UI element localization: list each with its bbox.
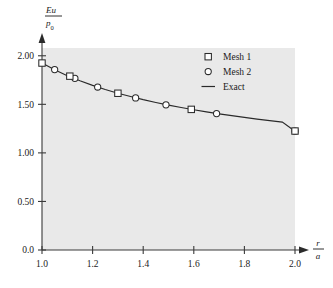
x-tick-label: 1.6 — [188, 259, 200, 269]
y-tick-label: 0.50 — [17, 197, 34, 207]
mesh1-data-point — [115, 90, 121, 96]
legend-label-mesh-1: Mesh 1 — [223, 52, 251, 62]
plot-background — [42, 48, 295, 250]
legend: Mesh 1 Mesh 2 Exact — [202, 52, 252, 92]
x-axis-title-denominator: a — [316, 251, 321, 261]
x-tick-label: 1.0 — [36, 259, 48, 269]
mesh2-data-point — [52, 66, 58, 72]
y-ticklabel-group: 0.00.501.001.502.00 — [17, 51, 34, 255]
legend-marker-mesh-1 — [205, 54, 211, 60]
legend-label-exact: Exact — [223, 82, 245, 92]
x-tick-label: 1.4 — [137, 259, 149, 269]
x-ticklabel-group: 1.01.21.41.61.82.0 — [36, 259, 301, 269]
mesh2-data-point — [95, 84, 101, 90]
mesh2-data-point — [163, 102, 169, 108]
x-tick-label: 1.8 — [238, 259, 250, 269]
mesh1-data-point — [292, 128, 298, 134]
figure-container: 0.00.501.001.502.00 1.01.21.41.61.82.0 E… — [0, 0, 333, 288]
mesh1-data-point — [67, 73, 73, 79]
x-tick-label: 1.2 — [87, 259, 99, 269]
chart-canvas: 0.00.501.001.502.00 1.01.21.41.61.82.0 E… — [0, 0, 333, 288]
x-axis-title-numerator: r — [316, 238, 320, 248]
x-axis-title: r a — [313, 238, 324, 261]
legend-marker-mesh-2 — [205, 68, 211, 74]
mesh2-data-point — [133, 95, 139, 101]
y-axis-arrow — [39, 33, 46, 43]
y-axis-title: Eu p0 — [45, 5, 62, 31]
mesh2-data-point — [213, 110, 219, 116]
y-tick-label: 0.0 — [22, 245, 34, 255]
y-axis-title-numerator: Eu — [45, 5, 56, 15]
y-axis-title-denominator: p0 — [45, 18, 54, 31]
mesh1-data-point — [39, 60, 45, 66]
x-tick-label: 2.0 — [289, 259, 301, 269]
x-axis-arrow — [299, 247, 309, 254]
y-tick-label: 1.50 — [17, 100, 34, 110]
y-tick-label: 1.00 — [17, 148, 34, 158]
legend-label-mesh-2: Mesh 2 — [223, 67, 251, 77]
y-tick-label: 2.00 — [17, 51, 34, 61]
mesh1-data-point — [188, 106, 194, 112]
